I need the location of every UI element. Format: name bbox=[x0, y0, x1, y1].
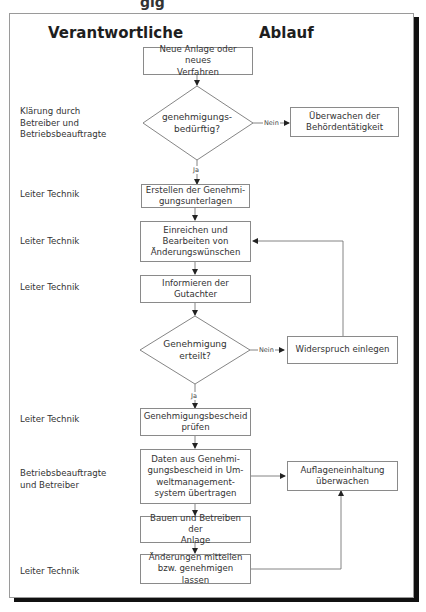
step-monitor-conditions: Auflageneinhaltung überwachen bbox=[287, 461, 398, 491]
edge-label-yes-1: Ja bbox=[192, 166, 200, 174]
step-inform: Informieren der Gutachter bbox=[140, 275, 251, 303]
step-transfer-data: Daten aus Genehmi- gungsbescheid in Um- … bbox=[140, 449, 251, 504]
responsible-label: Leiter Technik bbox=[20, 282, 79, 294]
step-submit: Einreichen und Bearbeiten von Änderungsw… bbox=[140, 221, 251, 262]
column-header-responsible: Verantwortliche bbox=[48, 24, 183, 42]
edge-label-yes-2: Ja bbox=[190, 392, 198, 400]
responsible-label: Leiter Technik bbox=[20, 414, 79, 426]
responsible-label: Betriebsbeauftragte und Betreiber bbox=[20, 468, 106, 491]
step-monitor-authority: Überwachen der Behördentätigkeit bbox=[290, 107, 399, 137]
responsible-label: Leiter Technik bbox=[20, 189, 79, 201]
decision-1-text: genehmigungs- bedürftig? bbox=[157, 111, 237, 135]
edge-label-no-1: Nein bbox=[263, 119, 280, 127]
step-start: Neue Anlage oder neues Verfahren bbox=[143, 47, 253, 75]
step-check-notice: Genehmigungsbescheid prüfen bbox=[140, 408, 251, 436]
responsible-label: Leiter Technik bbox=[20, 236, 79, 248]
responsible-label: Klärung durch Betreiber und Betriebsbeau… bbox=[20, 106, 106, 141]
decision-2-text: Genehmigung erteilt? bbox=[155, 338, 235, 362]
step-objection: Widerspruch einlegen bbox=[287, 336, 398, 364]
step-create-docs: Erstellen der Genehmi- gungsunterlagen bbox=[141, 184, 250, 208]
column-header-process: Ablauf bbox=[259, 24, 314, 42]
step-report-changes: Änderungen mitteilen bzw. genehmigen las… bbox=[140, 554, 251, 584]
responsible-label: Leiter Technik bbox=[20, 566, 79, 578]
edge-label-no-2: Nein bbox=[258, 346, 275, 354]
step-build-operate: Bauen und Betreiben der Anlage bbox=[140, 516, 251, 543]
